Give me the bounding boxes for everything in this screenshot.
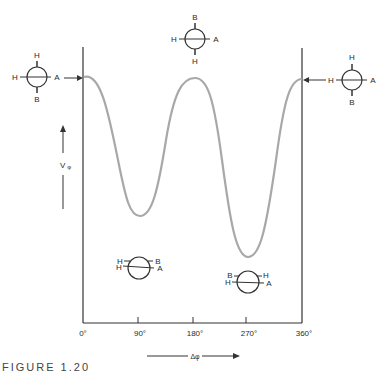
- svg-text:H: H: [171, 35, 177, 44]
- svg-text:B: B: [34, 95, 39, 104]
- svg-text:H: H: [192, 57, 198, 66]
- svg-text:H: H: [328, 76, 334, 85]
- tick-label-90: 90°: [134, 329, 146, 338]
- newman-projection-eclipsed-180: B H A H: [171, 13, 219, 66]
- svg-text:H: H: [116, 263, 122, 272]
- x-axis-label: Δφ: [190, 353, 200, 361]
- svg-text:A: A: [213, 35, 219, 44]
- tick-label-270: 270°: [241, 329, 258, 338]
- svg-text:H: H: [34, 51, 40, 60]
- tick-label-180: 180°: [187, 329, 204, 338]
- arrow-to-360: [303, 77, 326, 83]
- x-ticks: [138, 317, 246, 323]
- svg-text:A: A: [266, 279, 272, 288]
- y-axis-label: Vφ: [60, 161, 71, 170]
- energy-curve: [84, 77, 302, 257]
- newman-projection-staggered-90: H H B A: [116, 257, 163, 279]
- svg-text:A: A: [54, 73, 60, 82]
- svg-text:H: H: [225, 278, 231, 287]
- arrow-to-0: [64, 75, 83, 81]
- svg-text:B: B: [349, 98, 354, 107]
- newman-projection-staggered-270: B H H A: [225, 271, 272, 293]
- newman-projection-eclipsed-0: H H A B: [12, 51, 60, 104]
- svg-text:B: B: [192, 13, 197, 22]
- svg-text:H: H: [349, 53, 355, 62]
- tick-label-0: 0°: [79, 329, 87, 338]
- figure-caption: FIGURE 1.20: [2, 361, 90, 373]
- tick-label-360: 360°: [296, 329, 313, 338]
- svg-text:H: H: [12, 73, 18, 82]
- svg-text:A: A: [157, 264, 163, 273]
- newman-projection-eclipsed-360: H H A B: [328, 53, 376, 107]
- svg-text:A: A: [370, 76, 376, 85]
